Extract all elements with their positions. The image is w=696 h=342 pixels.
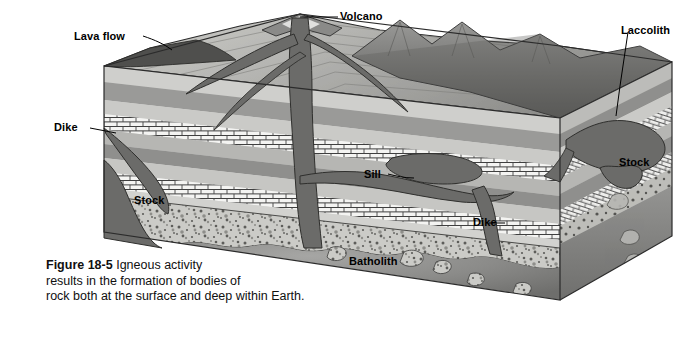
label-volcano: Volcano: [340, 10, 383, 22]
figure-caption-line-2: results in the formation of bodies of: [46, 274, 241, 288]
label-stock-right: Stock: [619, 156, 649, 168]
label-lava-flow: Lava flow: [74, 30, 125, 42]
label-laccolith: Laccolith: [621, 24, 670, 36]
label-stock-left: Stock: [134, 194, 164, 206]
leader-dike-left: [90, 128, 116, 133]
label-dike-left: Dike: [54, 121, 78, 133]
figure-caption-line-3: rock both at the surface and deep within…: [46, 289, 305, 303]
figure-caption-line-1: Igneous activity: [116, 258, 202, 272]
label-sill: Sill: [364, 168, 381, 180]
label-dike-right: Dike: [473, 216, 497, 228]
leader-sill: [388, 174, 414, 178]
figure-caption: Figure 18-5 Igneous activity results in …: [46, 258, 376, 305]
figure-number: Figure 18-5: [46, 258, 113, 272]
leader-lava-flow: [143, 36, 172, 50]
figure-igneous-activity: Lava flow Volcano Laccolith Dike Stock S…: [0, 0, 696, 342]
leader-laccolith: [616, 32, 628, 116]
